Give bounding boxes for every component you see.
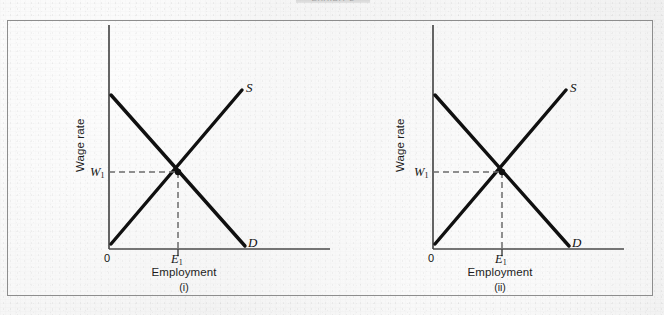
employment-variable: E xyxy=(171,252,179,266)
employment-axis-marker: E1 xyxy=(171,252,183,267)
x-axis-label: Employment xyxy=(24,266,344,278)
y-axis-label: Wage rate xyxy=(394,118,406,172)
wage-variable: W xyxy=(90,165,100,179)
origin-label: 0 xyxy=(428,252,434,264)
equilibrium-point xyxy=(175,169,181,175)
wage-subscript: 1 xyxy=(424,171,428,180)
wage-subscript: 1 xyxy=(100,171,104,180)
employment-axis-marker: E1 xyxy=(495,252,507,267)
supply-curve-label: S xyxy=(246,80,253,96)
wage-variable: W xyxy=(414,165,424,179)
clipped-caption-strip: EXHIBIT 2 xyxy=(296,0,370,3)
panel-ii: S D Wage rate W1 0 E1 Employment (ii) xyxy=(336,20,656,296)
panel-i: S D Wage rate W1 0 E1 Employment (i) xyxy=(12,20,332,296)
demand-curve-label: D xyxy=(572,235,581,251)
panel-ii-caption: (ii) xyxy=(340,281,660,293)
employment-variable: E xyxy=(495,252,503,266)
wage-axis-marker: W1 xyxy=(414,165,428,180)
panel-i-caption: (i) xyxy=(24,281,344,293)
supply-curve-label: S xyxy=(570,80,577,96)
origin-label: 0 xyxy=(104,252,110,264)
demand-curve-label: D xyxy=(248,235,257,251)
equilibrium-point xyxy=(499,169,505,175)
x-axis-label: Employment xyxy=(340,266,660,278)
y-axis-label: Wage rate xyxy=(74,118,86,172)
wage-axis-marker: W1 xyxy=(90,165,104,180)
